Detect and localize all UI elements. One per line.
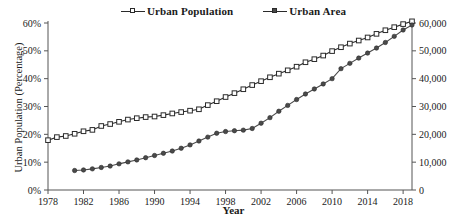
- data-point-marker: [241, 87, 246, 92]
- y-axis-title: Urban Population (Percentage): [13, 28, 24, 188]
- data-point-marker: [312, 87, 316, 91]
- data-point-marker: [277, 71, 282, 76]
- data-point-marker: [143, 156, 147, 160]
- data-point-marker: [356, 38, 361, 43]
- data-point-marker: [126, 160, 130, 164]
- data-point-marker: [392, 34, 396, 38]
- y-tick-label-right: 10,000: [419, 157, 447, 168]
- data-point-marker: [223, 129, 227, 133]
- y-tick-label-left: 50%: [23, 45, 41, 56]
- data-point-marker: [152, 114, 157, 119]
- data-point-marker: [72, 168, 76, 172]
- data-point-marker: [401, 28, 405, 32]
- data-point-marker: [232, 91, 237, 96]
- y-tick-label-right: 60,000: [419, 18, 447, 29]
- data-point-marker: [286, 103, 290, 107]
- data-point-marker: [365, 51, 369, 55]
- data-point-marker: [99, 124, 104, 129]
- data-point-marker: [170, 111, 175, 116]
- plot-canvas: 0%10%20%30%40%50%60%010,00020,00030,0004…: [0, 0, 467, 223]
- data-point-marker: [161, 113, 166, 118]
- data-point-marker: [312, 57, 317, 62]
- data-point-marker: [303, 60, 308, 65]
- y-tick-label-left: 40%: [23, 73, 41, 84]
- data-point-marker: [126, 117, 131, 122]
- data-point-marker: [161, 151, 165, 155]
- data-point-marker: [241, 128, 245, 132]
- data-point-marker: [374, 46, 378, 50]
- data-point-marker: [268, 115, 272, 119]
- data-point-marker: [232, 129, 236, 133]
- y-tick-label-right: 20,000: [419, 129, 447, 140]
- data-point-marker: [206, 103, 211, 108]
- data-point-marker: [63, 134, 68, 139]
- data-point-marker: [197, 139, 201, 143]
- y-tick-label-left: 10%: [23, 157, 41, 168]
- data-point-marker: [108, 164, 112, 168]
- y-tick-label-right: 30,000: [419, 101, 447, 112]
- data-point-marker: [348, 41, 353, 46]
- y-tick-label-right: 0: [419, 185, 424, 196]
- data-point-marker: [90, 167, 94, 171]
- y-tick-label-left: 60%: [23, 18, 41, 29]
- data-point-marker: [374, 32, 379, 37]
- data-point-marker: [179, 110, 184, 115]
- y-tick-label-right: 50,000: [419, 45, 447, 56]
- data-point-marker: [188, 108, 193, 113]
- data-point-marker: [188, 143, 192, 147]
- data-point-marker: [108, 122, 113, 127]
- data-point-marker: [46, 138, 51, 143]
- data-point-marker: [321, 53, 326, 58]
- y-tick-label-left: 30%: [23, 101, 41, 112]
- data-point-marker: [285, 68, 290, 73]
- data-point-marker: [143, 115, 148, 120]
- data-point-marker: [214, 131, 218, 135]
- x-axis-title: Year: [0, 204, 467, 216]
- data-point-marker: [134, 116, 139, 121]
- data-point-marker: [206, 135, 210, 139]
- series-urban-population: [46, 19, 415, 142]
- data-point-marker: [365, 35, 370, 40]
- data-point-marker: [99, 165, 103, 169]
- urban-growth-chart: Urban Population Urban Area 0%10%20%30%4…: [0, 0, 467, 223]
- data-point-marker: [152, 153, 156, 157]
- data-point-marker: [339, 45, 344, 50]
- data-point-marker: [348, 61, 352, 65]
- data-point-marker: [117, 162, 121, 166]
- data-point-marker: [55, 135, 60, 140]
- data-point-marker: [197, 107, 202, 112]
- data-point-marker: [392, 25, 397, 30]
- data-point-marker: [277, 109, 281, 113]
- data-point-marker: [303, 92, 307, 96]
- data-point-marker: [357, 56, 361, 60]
- data-point-marker: [401, 22, 406, 27]
- data-point-marker: [259, 79, 264, 84]
- data-point-marker: [383, 28, 388, 33]
- data-point-marker: [268, 75, 273, 80]
- data-point-marker: [294, 64, 299, 69]
- data-point-marker: [410, 23, 414, 27]
- data-point-marker: [90, 128, 95, 133]
- data-point-marker: [179, 146, 183, 150]
- data-point-marker: [223, 95, 228, 100]
- data-point-marker: [250, 126, 254, 130]
- data-point-marker: [339, 66, 343, 70]
- data-point-marker: [72, 131, 77, 136]
- data-point-marker: [383, 40, 387, 44]
- data-point-marker: [259, 121, 263, 125]
- data-point-marker: [117, 120, 122, 125]
- y-tick-label-right: 40,000: [419, 73, 447, 84]
- data-point-marker: [170, 149, 174, 153]
- data-point-marker: [135, 158, 139, 162]
- data-point-marker: [81, 129, 86, 134]
- series-line: [75, 25, 412, 171]
- data-point-marker: [81, 168, 85, 172]
- data-point-marker: [294, 97, 298, 101]
- data-point-marker: [321, 82, 325, 86]
- data-point-marker: [330, 76, 334, 80]
- y-tick-label-left: 20%: [23, 129, 41, 140]
- data-point-marker: [214, 99, 219, 104]
- data-point-marker: [330, 49, 335, 54]
- data-point-marker: [250, 83, 255, 88]
- series-urban-area: [72, 23, 414, 173]
